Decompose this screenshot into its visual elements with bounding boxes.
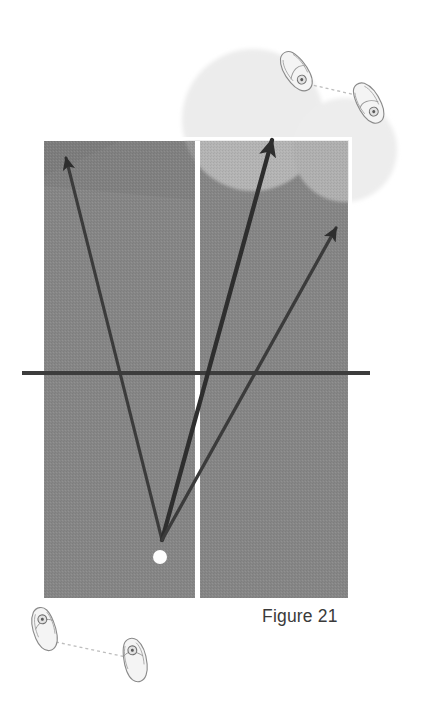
tennis-court-diagram xyxy=(0,0,422,720)
figure-caption: Figure 21 xyxy=(262,608,338,626)
player-footprints-bottom xyxy=(28,605,151,684)
foot-outline-bottom-right xyxy=(119,636,151,684)
figure-container: Figure 21 xyxy=(0,0,422,720)
center-service-line xyxy=(195,141,200,598)
foot-outline-bottom-left xyxy=(28,605,60,653)
stance-connector-bottom xyxy=(56,642,126,657)
tennis-ball xyxy=(153,550,167,564)
